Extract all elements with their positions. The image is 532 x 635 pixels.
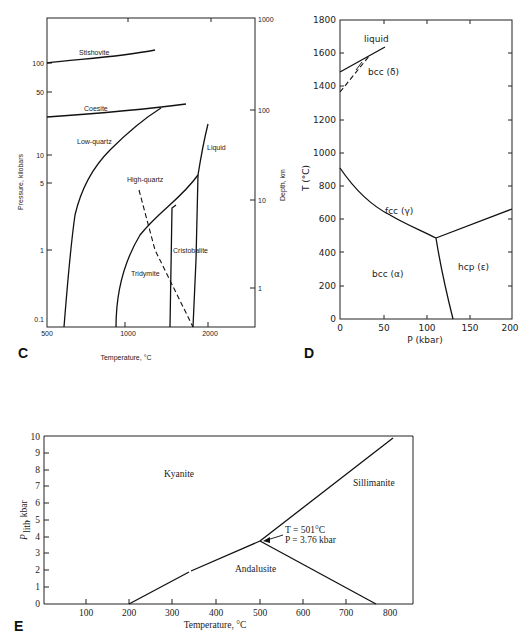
andalusite-sillimanite-boundary xyxy=(260,541,376,604)
x-axis-label: Temperature, °C xyxy=(100,354,151,362)
annotation-temperature: T = 501°C xyxy=(285,525,325,535)
region-cristobalite: Cristobalite xyxy=(173,247,208,254)
y-tick-label: 10 xyxy=(31,432,41,442)
y-tick-label: 9 xyxy=(35,448,40,458)
y-axis-label-main: P xyxy=(19,534,29,541)
panel-c: 100 50 10 5 1 0.1 500 1000 2000 1000 100… xyxy=(17,16,287,362)
y-axis-label: Pressure, kilobars xyxy=(17,153,24,210)
y-tick-label: 8 xyxy=(35,465,40,475)
bcc-delta-boundary xyxy=(340,55,370,92)
region-low-quartz: Low-quartz xyxy=(77,138,112,146)
region-liquid: Liquid xyxy=(207,144,226,152)
x-tick-label: 2000 xyxy=(202,330,218,337)
x-tick-label: 200 xyxy=(501,323,518,333)
region-sillimanite: Sillimanite xyxy=(353,478,395,488)
x-tick-label: 50 xyxy=(378,323,390,333)
region-bcc-alpha: bcc (α) xyxy=(372,269,403,279)
x-tick-label: 0 xyxy=(337,323,343,333)
y-tick-label: 50 xyxy=(36,89,44,96)
figure-canvas: 100 50 10 5 1 0.1 500 1000 2000 1000 100… xyxy=(0,0,532,635)
bcc-alpha-hcp-boundary xyxy=(436,238,453,319)
y-tick-label: 5 xyxy=(40,180,44,187)
y-tick-label: 3 xyxy=(35,548,40,558)
x-tick-label: 500 xyxy=(41,330,53,337)
y-tick-label: 4 xyxy=(35,532,40,542)
y-tick-label: 1400 xyxy=(313,81,336,91)
kyanite-sillimanite-boundary xyxy=(260,438,393,541)
y-tick-label: 10 xyxy=(36,152,44,159)
x-tick-label: 600 xyxy=(296,608,311,618)
y-tick-label: 600 xyxy=(319,214,336,224)
y-tick-label: 0 xyxy=(35,599,40,609)
x-tick-label: 300 xyxy=(165,608,180,618)
coesite-boundary xyxy=(47,104,186,117)
y-axis-label: P lith , kbar xyxy=(19,500,32,541)
region-tridymite: Tridymite xyxy=(131,270,160,278)
x-tick-label: 100 xyxy=(418,323,435,333)
region-andalusite: Andalusite xyxy=(235,564,276,574)
y-tick-label: 0 xyxy=(330,314,336,324)
y-tick-label: 2 xyxy=(35,565,40,575)
annotation-pressure: P = 3.76 kbar xyxy=(285,535,337,545)
y-tick-label: 5 xyxy=(35,515,40,525)
y-tick-label: 0.1 xyxy=(34,316,44,323)
y2-tick-label: 10 xyxy=(258,197,266,204)
x-axis-label: P (kbar) xyxy=(407,335,442,345)
y-tick-label: 200 xyxy=(319,281,336,291)
panel-label-c: C xyxy=(18,345,28,361)
x-axis-label: Temperature, °C xyxy=(184,620,247,630)
y-axis-label-rest: , kbar xyxy=(19,500,29,522)
cristobalite-boundary xyxy=(170,205,176,327)
x-tick-label: 400 xyxy=(209,608,224,618)
y-tick-label: 1 xyxy=(40,247,44,254)
liquid-boundary xyxy=(193,124,208,327)
panel-d: 0 200 400 600 800 1000 1200 1400 1600 18… xyxy=(301,15,519,361)
metastable-dashed-line xyxy=(139,190,193,327)
y-tick-label: 6 xyxy=(35,498,40,508)
x-tick-label: 200 xyxy=(122,608,137,618)
y-tick-label: 1800 xyxy=(313,15,336,25)
y-tick-label: 800 xyxy=(319,181,336,191)
fcc-hcp-boundary xyxy=(436,209,512,238)
x-tick-label: 700 xyxy=(339,608,354,618)
x-tick-label: 800 xyxy=(383,608,398,618)
kyanite-andalusite-boundary-a xyxy=(129,572,189,604)
bcc-alpha-fcc-boundary xyxy=(340,168,436,238)
panel-label-d: D xyxy=(304,345,314,361)
y-tick-label: 100 xyxy=(32,60,44,67)
y-axis-label: T (°C) xyxy=(301,165,311,192)
x-tick-label: 1000 xyxy=(120,330,136,337)
y2-tick-label: 100 xyxy=(258,107,270,114)
y2-tick-label: 1 xyxy=(258,285,262,292)
y2-axis-label: Depth, km xyxy=(279,169,287,201)
region-stishovite: Stishovite xyxy=(79,49,109,56)
region-fcc-gamma: fcc (γ) xyxy=(385,206,413,216)
region-kyanite: Kyanite xyxy=(164,469,194,479)
region-high-quartz: High-quartz xyxy=(127,176,164,184)
region-bcc-delta: bcc (δ) xyxy=(368,67,399,77)
y-tick-label: 400 xyxy=(319,248,336,258)
region-coesite: Coesite xyxy=(84,105,108,112)
y2-tick-label: 1000 xyxy=(258,16,274,23)
region-hcp-epsilon: hcp (ε) xyxy=(458,262,489,272)
x-tick-label: 500 xyxy=(253,608,268,618)
panel-d-frame xyxy=(340,20,512,319)
y-tick-label: 1000 xyxy=(313,148,336,158)
y-tick-label: 1600 xyxy=(313,48,336,58)
y-tick-label: 1200 xyxy=(313,115,336,125)
panel-c-frame xyxy=(47,18,255,327)
panel-e: 0 1 2 3 4 5 6 7 8 9 10 100 200 300 400 5… xyxy=(14,432,413,634)
x-tick-label: 100 xyxy=(79,608,94,618)
y-tick-label: 1 xyxy=(35,582,40,592)
y-tick-label: 7 xyxy=(35,481,40,491)
panel-e-frame xyxy=(44,436,413,604)
region-liquid: liquid xyxy=(364,34,389,44)
panel-label-e: E xyxy=(14,618,23,634)
x-tick-label: 150 xyxy=(461,323,478,333)
